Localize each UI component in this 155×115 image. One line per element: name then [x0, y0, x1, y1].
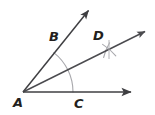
ray-upper-through-b: [23, 11, 89, 93]
geometry-figure: Angle bisector construction diagram: [0, 0, 155, 115]
point-label-d: D: [93, 28, 104, 43]
point-label-c: C: [74, 96, 84, 111]
vertex-label-a: A: [12, 95, 23, 110]
ray-bisector-through-d: [23, 32, 145, 93]
point-label-b: B: [49, 29, 59, 44]
label-group: A B C D: [12, 28, 104, 111]
ray-group: [23, 11, 145, 93]
geometry-canvas: Angle bisector construction diagram: [0, 0, 155, 115]
